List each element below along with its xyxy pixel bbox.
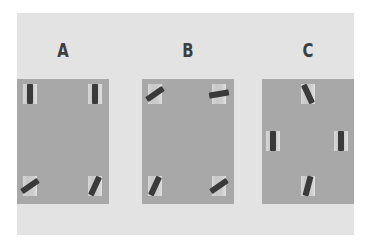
bar-icon (209, 89, 230, 98)
element-a-top-right (88, 84, 102, 104)
panel-label-b: B (152, 39, 224, 61)
figure-canvas: A B C (17, 13, 354, 235)
element-a-bottom-left (23, 176, 37, 196)
bar-icon (88, 176, 102, 197)
bar-icon (270, 131, 276, 151)
element-c-bottom-center (301, 176, 315, 196)
bar-icon (145, 86, 165, 102)
panel-b (142, 79, 234, 204)
panel-label-a: A (27, 39, 99, 61)
element-a-top-left (23, 84, 37, 104)
bar-icon (303, 176, 314, 197)
element-b-bottom-right (212, 176, 226, 196)
bar-icon (20, 178, 40, 194)
element-c-middle-left (266, 131, 280, 151)
bar-icon (338, 131, 344, 151)
bar-icon (148, 176, 162, 197)
element-c-top-center (301, 84, 315, 104)
panel-c (262, 79, 354, 204)
element-b-top-right (212, 84, 226, 104)
element-a-bottom-right (88, 176, 102, 196)
element-b-top-left (148, 84, 162, 104)
bar-icon (209, 178, 229, 194)
bar-icon (27, 84, 33, 104)
panel-a (17, 79, 109, 204)
element-c-middle-right (334, 131, 348, 151)
panel-label-c: C (272, 39, 344, 61)
element-b-bottom-left (148, 176, 162, 196)
bar-icon (92, 84, 98, 104)
bar-icon (301, 84, 315, 105)
